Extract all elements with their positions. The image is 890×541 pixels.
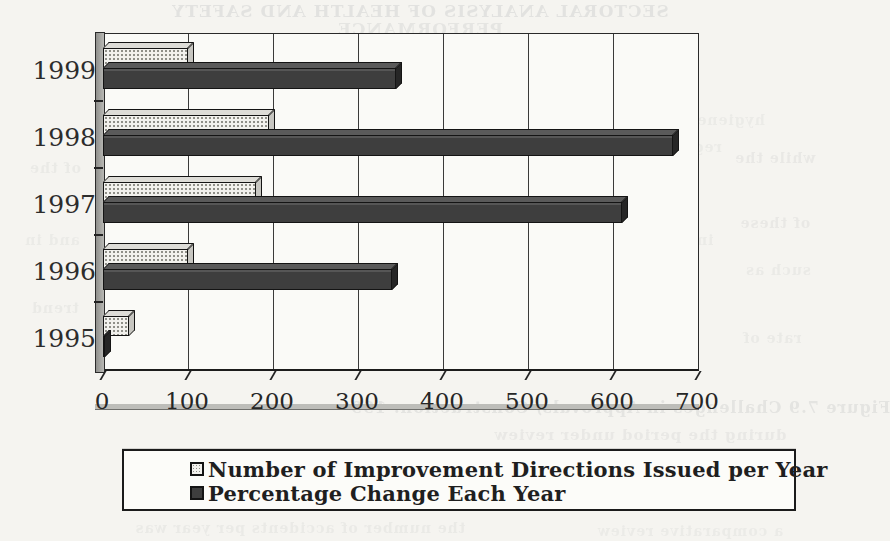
bleed-through-text-line: of these <box>740 215 811 231</box>
legend-entry: Number of Improvement Directions Issued … <box>190 457 794 481</box>
bar-topf <box>103 263 398 269</box>
x-axis-label-500: 500 <box>505 388 549 414</box>
legend-entry: Percentage Change Each Year <box>190 481 794 505</box>
stippled-square-icon <box>190 462 204 476</box>
bar-face <box>103 269 392 290</box>
y-axis-label-1998: 1998 <box>28 123 96 153</box>
bar-topf <box>103 196 628 202</box>
y-axis-tick <box>94 100 103 102</box>
x-axis-label-300: 300 <box>335 388 379 414</box>
legend-rows: Number of Improvement Directions Issued … <box>124 451 794 505</box>
bar-topf <box>103 129 679 135</box>
x-axis-tick-600 <box>609 371 616 380</box>
bleed-through-text-line: of the <box>29 160 81 176</box>
bleed-through-text-line: and in <box>24 232 79 248</box>
chart-legend-box: Number of Improvement Directions Issued … <box>122 449 796 511</box>
bar-topf <box>103 176 262 182</box>
bar-1998-percentage <box>103 135 673 156</box>
x-axis-label-600: 600 <box>590 388 634 414</box>
y-axis-tick <box>94 234 103 236</box>
bar-sidef <box>396 62 402 89</box>
x-axis-label-400: 400 <box>420 388 464 414</box>
bar-1997-percentage <box>103 202 622 223</box>
bar-face <box>103 68 396 89</box>
bleed-through-text-line: during the period under review <box>494 426 787 444</box>
bleed-through-text-line: trend <box>31 300 79 316</box>
x-axis-tick-400 <box>439 371 446 380</box>
y-axis-label-1999: 1999 <box>28 56 96 86</box>
bleed-through-text-line: the number of accidents per year was <box>135 520 466 536</box>
legend-label: Percentage Change Each Year <box>208 481 566 506</box>
y-axis-tick <box>94 167 103 169</box>
bleed-through-text-line: rate of <box>742 330 801 346</box>
x-axis-label-100: 100 <box>165 388 209 414</box>
bar-topf <box>103 62 402 68</box>
bar-sidef <box>392 263 398 290</box>
bleed-through-text-line: a comparative review <box>597 523 783 539</box>
x-axis-tick-500 <box>524 371 531 380</box>
bar-topf <box>103 109 275 115</box>
bar-sidef <box>622 196 628 223</box>
bar-topf <box>103 42 194 48</box>
bar-face <box>103 202 622 223</box>
x-axis-tick-100 <box>184 371 191 380</box>
legend-label: Number of Improvement Directions Issued … <box>208 457 827 482</box>
bar-topf <box>103 243 194 249</box>
y-axis-tick <box>94 301 103 303</box>
x-axis-label-200: 200 <box>250 388 294 414</box>
x-axis-label-0: 0 <box>95 388 110 414</box>
x-axis-tick-700 <box>694 371 701 380</box>
y-axis-label-1996: 1996 <box>28 257 96 287</box>
x-axis-label-700: 700 <box>675 388 719 414</box>
y-axis-label-1995: 1995 <box>28 324 96 354</box>
y-axis-label-1997: 1997 <box>28 190 96 220</box>
bleed-through-text-line: such as <box>745 262 811 278</box>
bar-1996-percentage <box>103 269 392 290</box>
dark-square-icon <box>190 486 204 500</box>
x-axis-tick-200 <box>269 371 276 380</box>
bar-1995-percentage <box>103 336 105 357</box>
chart-plot-area <box>102 33 699 371</box>
bleed-through-text-line: SECTORAL ANALYSIS OF HEALTH AND SAFETY <box>171 1 669 21</box>
x-axis-tick-300 <box>354 371 361 380</box>
bar-face <box>103 135 673 156</box>
bar-sidef <box>105 330 111 357</box>
bar-sidef <box>673 129 679 156</box>
bar-1999-percentage <box>103 68 396 89</box>
bleed-through-text-line: while the <box>734 150 815 166</box>
bar-sidef <box>129 310 135 336</box>
